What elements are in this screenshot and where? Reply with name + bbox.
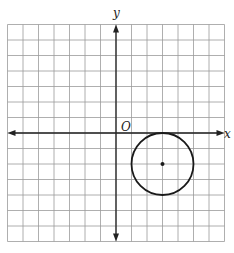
x-axis-label: x [224,127,231,141]
center-point [161,162,165,166]
origin-label: O [121,120,131,134]
axes [8,25,225,242]
coordinate-plane: O x y [0,0,234,253]
arrow-down-icon [113,234,119,242]
y-axis-label: y [112,6,120,20]
arrow-up-icon [113,25,119,33]
arrow-left-icon [8,130,16,136]
